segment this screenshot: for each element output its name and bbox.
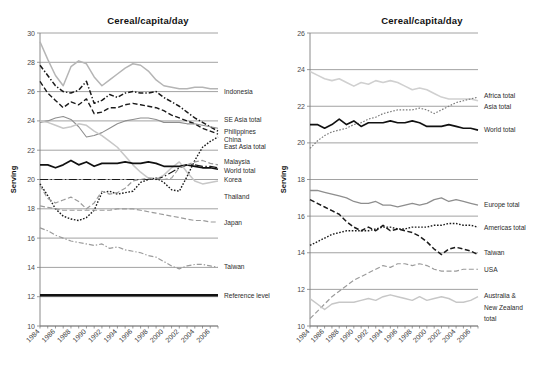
series-label: Europe total [484,201,520,209]
ytick-label: 12 [297,286,305,293]
xtick-label: 2002 [426,328,442,344]
series-label: Malaysia [224,158,250,166]
y-axis-title: Serving [279,165,288,193]
ytick-label: 30 [27,30,35,37]
series-line [40,206,218,222]
xtick-label: 1986 [309,328,325,344]
series-line [40,228,218,269]
xtick-label: 2002 [164,328,180,344]
series-label: Reference level [224,292,270,299]
xtick-label: 1996 [382,328,398,344]
ytick-label: 16 [297,213,305,220]
ytick-label: 22 [297,103,305,110]
series-label: Australia & [484,292,516,299]
ytick-label: 18 [297,176,305,183]
xtick-label: 1984 [295,328,311,344]
figure-two-line-charts: Cereal/capita/day 1012141618202224262830… [0,0,556,372]
series-line [40,42,218,89]
series-label: Taiwan [224,263,245,270]
ytick-label: 24 [297,66,305,73]
series-line [310,295,478,310]
series-label: Indonesia [224,88,253,95]
series-label: Taiwan [484,249,505,256]
xtick-label: 2006 [455,328,471,344]
ytick-label: 20 [297,139,305,146]
series-label: total [484,315,497,322]
y-axis-title: Serving [9,165,18,193]
xtick-label: 2006 [195,328,211,344]
xtick-label: 1992 [87,328,103,344]
series-label: World total [224,167,256,174]
ytick-label: 22 [27,147,35,154]
ytick-label: 14 [297,249,305,256]
series-label: USA [484,266,498,273]
series-line [40,137,218,221]
series-label: SE Asia total [224,116,262,123]
chart-svg-right: 1012141618202224261984198619881990199219… [278,0,556,372]
xtick-label: 1984 [25,328,41,344]
series-label: New Zealand [484,304,523,311]
ytick-label: 26 [27,88,35,95]
xtick-label: 1992 [353,328,369,344]
xtick-label: 2000 [149,328,165,344]
xtick-label: 1988 [56,328,72,344]
ytick-label: 24 [27,117,35,124]
xtick-label: 1994 [102,328,118,344]
xtick-label: 1990 [339,328,355,344]
xtick-label: 1998 [397,328,413,344]
series-line [310,71,478,100]
series-line [310,190,478,206]
ytick-label: 20 [27,176,35,183]
series-line [40,81,218,134]
xtick-label: 1986 [40,328,56,344]
series-line [310,200,478,255]
series-label: China [224,136,242,143]
series-label: Americas total [484,224,526,231]
chart-panel-left: Cereal/capita/day 1012141618202224262830… [0,0,278,372]
series-line [310,223,478,245]
chart-svg-left: 1012141618202224262830198419861988199019… [0,0,278,372]
xtick-label: 1990 [71,328,87,344]
series-label: East Asia total [224,143,266,150]
series-label: World total [484,126,516,133]
series-label: Africa total [484,92,516,99]
xtick-label: 2004 [441,328,457,344]
series-label: Japan [224,219,242,227]
xtick-label: 1996 [118,328,134,344]
series-line [40,117,218,138]
ytick-label: 26 [297,30,305,37]
ytick-label: 12 [27,293,35,300]
ytick-label: 18 [27,205,35,212]
ytick-label: 16 [27,235,35,242]
ytick-label: 28 [27,59,35,66]
series-label: Asia total [484,103,512,110]
xtick-label: 2004 [180,328,196,344]
xtick-label: 1988 [324,328,340,344]
xtick-label: 1994 [368,328,384,344]
xtick-label: 1998 [133,328,149,344]
ytick-label: 14 [27,264,35,271]
xtick-label: 2000 [412,328,428,344]
series-line [40,121,218,184]
series-line [40,160,218,208]
series-line [310,119,478,130]
series-line [310,264,478,319]
series-label: Thailand [224,193,250,200]
chart-panel-right: Cereal/capita/day 1012141618202224261984… [278,0,556,372]
series-label: Korea [224,176,242,183]
